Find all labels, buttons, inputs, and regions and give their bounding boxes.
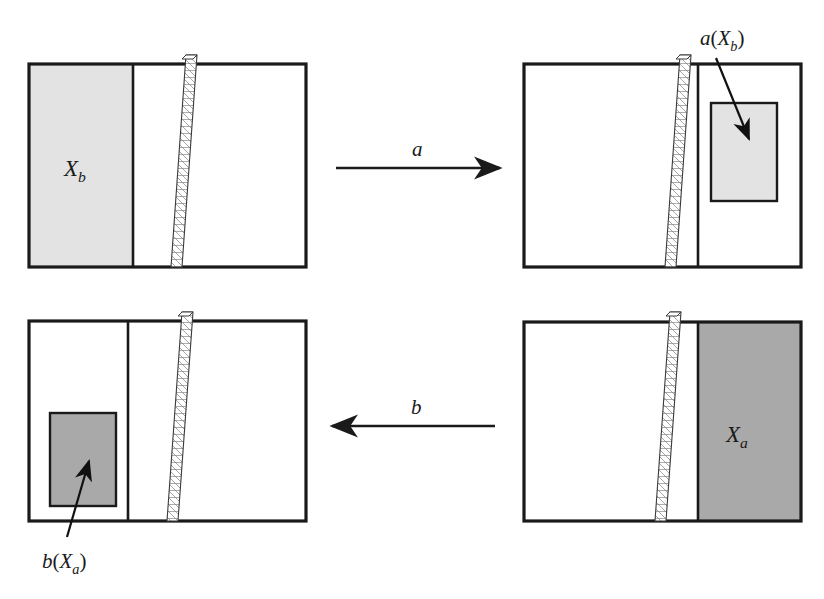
arrow-b: b [332,395,495,426]
arrow-a-label: a [412,137,423,161]
panel-top-right-hatched-wall [665,55,691,267]
panel-bottom-right: Xa [524,312,801,521]
panel-top-right-inner-rect [711,103,777,201]
callout-a-xb-label: a(Xb) [700,26,744,54]
panel-bottom-left-hatched-wall [167,312,193,521]
diagram-canvas: Xb a(Xb) b(Xa) [0,0,824,599]
panel-bottom-right-hatched-wall [655,312,681,521]
arrow-b-label: b [411,395,422,419]
arrow-a: a [336,137,500,168]
panel-top-left: Xb [29,55,306,267]
panel-top-left-shaded-region [29,64,133,267]
callout-b-xa-label: b(Xa) [42,549,86,577]
figure-root: Xb a(Xb) b(Xa) [0,0,824,599]
panel-top-right [524,55,801,267]
panel-top-left-hatched-wall [171,55,197,267]
panel-bottom-right-shaded-region [698,322,801,521]
panel-bottom-left-inner-rect [50,413,116,506]
panel-bottom-left [29,312,306,521]
